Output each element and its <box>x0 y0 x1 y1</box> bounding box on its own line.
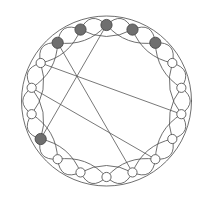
figure-root <box>0 0 213 202</box>
graph-node-filled <box>35 133 46 144</box>
graph-node-open <box>151 155 160 164</box>
outer-envelope-circle <box>22 16 192 186</box>
edge-arc-layer <box>22 16 192 186</box>
circulant-graph-figure <box>0 0 213 202</box>
chord-left-to-lowerright <box>32 88 156 159</box>
graph-node-filled <box>75 24 86 35</box>
graph-node-open <box>168 58 177 67</box>
chord-lowerright-to-upperleft <box>58 43 133 173</box>
graph-node-filled <box>101 19 112 30</box>
graph-node-open <box>168 134 177 143</box>
graph-node-filled <box>52 37 63 48</box>
graph-node-open <box>102 172 111 181</box>
graph-node-open <box>76 168 85 177</box>
chord-right-to-left <box>41 63 182 114</box>
edge-arc-step2 <box>81 165 133 172</box>
graph-node-filled <box>127 24 138 35</box>
graph-node-filled <box>150 37 161 48</box>
graph-node-open <box>177 83 186 92</box>
graph-node-open <box>27 83 36 92</box>
graph-node-open <box>177 110 186 119</box>
graph-node-open <box>128 168 137 177</box>
node-layer <box>27 19 186 181</box>
graph-node-open <box>27 110 36 119</box>
graph-node-open <box>53 155 62 164</box>
graph-node-open <box>36 58 45 67</box>
